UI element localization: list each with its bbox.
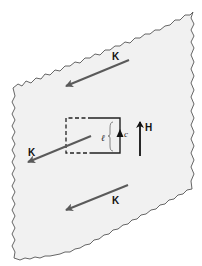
h-field-label: H [145, 122, 152, 133]
loop-length-label: ℓ [101, 133, 105, 143]
current-sheet-diagram: K K ℓ c H K [0, 0, 202, 266]
k-label-bottom: K [112, 195, 120, 206]
contour-label: c [124, 129, 128, 139]
k-label-top: K [112, 51, 120, 62]
diagram-canvas: K K ℓ c H K [0, 0, 202, 266]
k-label-middle: K [28, 147, 36, 158]
